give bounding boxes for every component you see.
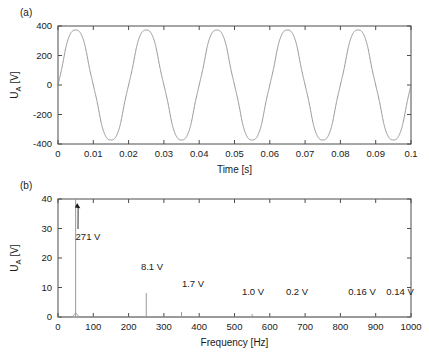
panel-a-xtick-5: 0.05 — [225, 148, 244, 159]
panel-b-xtick-9: 900 — [368, 321, 384, 332]
figure-container: (a)00.010.020.030.040.050.060.070.080.09… — [0, 0, 429, 354]
annotation-peak-350hz: 1.7 V — [182, 278, 205, 289]
panel-a-xlabel: Time [s] — [217, 164, 252, 175]
panel-a-ytick-1: -200 — [33, 109, 52, 120]
panel-a-plot-area — [58, 26, 411, 144]
panel-b-ytick-0: 0 — [47, 311, 52, 322]
panel-a-xtick-6: 0.06 — [261, 148, 280, 159]
panel-b-ytick-1: 10 — [41, 282, 52, 293]
panel-b-xtick-1: 100 — [85, 321, 101, 332]
panel-a-time-domain: (a)00.010.020.030.040.050.060.070.080.09… — [0, 0, 429, 177]
panel-b-plot-area — [58, 199, 411, 317]
panel-b-xtick-7: 700 — [297, 321, 313, 332]
panel-a-waveform — [58, 30, 411, 140]
panel-a-xtick-3: 0.03 — [155, 148, 174, 159]
panel-a-xtick-1: 0.01 — [84, 148, 103, 159]
panel-a-ylabel: UA [V] — [9, 71, 23, 98]
panel-b-xtick-2: 200 — [121, 321, 137, 332]
panel-a-label: (a) — [20, 7, 32, 18]
panel-b-xtick-5: 500 — [227, 321, 243, 332]
panel-a-ytick-4: 400 — [36, 20, 52, 31]
panel-b-xtick-6: 600 — [262, 321, 278, 332]
panel-b-ytick-3: 30 — [41, 223, 52, 234]
panel-a-xtick-8: 0.08 — [331, 148, 350, 159]
panel-a-xtick-4: 0.04 — [190, 148, 209, 159]
panel-b-ylabel: UA [V] — [9, 244, 23, 271]
panel-b-ytick-2: 20 — [41, 252, 52, 263]
annotation-peak-850hz: 0.16 V — [348, 286, 376, 297]
panel-a-ytick-2: 0 — [47, 79, 52, 90]
annotation-peak-550hz: 1.0 V — [242, 286, 265, 297]
annotation-peak-950hz: 0.14 V — [386, 286, 414, 297]
panel-b-xtick-4: 400 — [191, 321, 207, 332]
panel-a-svg: (a)00.010.020.030.040.050.060.070.080.09… — [0, 0, 429, 177]
panel-b-xtick-0: 0 — [55, 321, 60, 332]
panel-a-ytick-3: 200 — [36, 50, 52, 61]
panel-b-label: (b) — [20, 180, 32, 191]
panel-a-xtick-9: 0.09 — [366, 148, 385, 159]
panel-b-xtick-8: 800 — [332, 321, 348, 332]
panel-a-ytick-0: -400 — [33, 138, 52, 149]
panel-b-ytick-4: 40 — [41, 193, 52, 204]
annotation-peak-250hz: 8.1 V — [141, 261, 164, 272]
panel-b-xtick-10: 1000 — [400, 321, 421, 332]
panel-a-xtick-0: 0 — [55, 148, 60, 159]
panel-b-xtick-3: 300 — [156, 321, 172, 332]
annotation-peak-650hz: 0.2 V — [286, 286, 309, 297]
panel-a-xtick-2: 0.02 — [119, 148, 138, 159]
panel-b-xlabel: Frequency [Hz] — [201, 337, 269, 348]
panel-b-frequency-spectrum: (b)0100200300400500600700800900100001020… — [0, 177, 429, 354]
panel-a-xtick-10: 0.1 — [404, 148, 417, 159]
annotation-peak-50hz: 271 V — [76, 231, 101, 242]
panel-a-xtick-7: 0.07 — [296, 148, 315, 159]
panel-b-svg: (b)0100200300400500600700800900100001020… — [0, 177, 429, 354]
